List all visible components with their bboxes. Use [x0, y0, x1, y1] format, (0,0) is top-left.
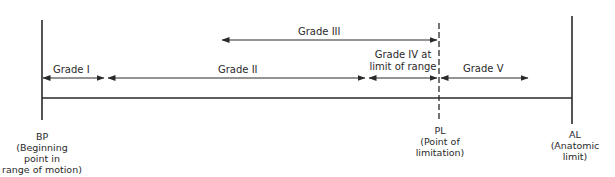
pl-abbr: PL — [415, 125, 465, 136]
grade-3-label: Grade III — [298, 26, 368, 37]
bp-abbr: BP — [17, 131, 67, 142]
bp-desc-line3: range of motion) — [0, 164, 87, 175]
grade-4-label-line1: Grade IV at — [368, 49, 438, 60]
al-abbr: AL — [550, 129, 600, 140]
grade-4-label-line2: limit of range — [366, 61, 440, 72]
grade-2-label: Grade II — [218, 64, 278, 75]
bp-desc-line2: point in — [2, 153, 82, 164]
grade-5-label: Grade V — [463, 63, 523, 74]
pl-desc-line1: (Point of — [400, 136, 480, 147]
al-desc-line2: limit) — [535, 151, 615, 162]
al-desc-line1: (Anatomic — [535, 140, 615, 151]
bp-desc-line1: (Beginning — [2, 142, 82, 153]
pl-desc-line2: limitation) — [400, 147, 480, 158]
grade-1-label: Grade I — [53, 64, 103, 75]
